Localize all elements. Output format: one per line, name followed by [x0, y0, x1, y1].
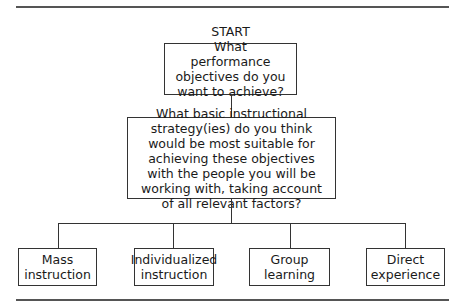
- branch-drop-4: [405, 223, 406, 248]
- outcome-individualized-instruction: Individualized instruction: [134, 248, 214, 286]
- outcome-label: Direct experience: [367, 252, 444, 282]
- outcome-direct-experience: Direct experience: [366, 248, 445, 286]
- bottom-rule: [16, 299, 449, 301]
- branch-horizontal: [58, 223, 406, 224]
- strategy-question-box: What basic instructional strategy(ies) d…: [127, 117, 336, 199]
- outcome-label: Mass instruction: [16, 252, 99, 282]
- objectives-question-text: What performance objectives do you want …: [165, 39, 296, 99]
- outcome-mass-instruction: Mass instruction: [18, 248, 97, 286]
- outcome-label: Individualized instruction: [129, 252, 220, 282]
- branch-drop-2: [173, 223, 174, 248]
- objectives-question-box: What performance objectives do you want …: [164, 43, 297, 95]
- top-rule: [16, 6, 449, 8]
- connector-q2-branch: [231, 199, 232, 223]
- branch-drop-1: [58, 223, 59, 248]
- strategy-question-text: What basic instructional strategy(ies) d…: [128, 106, 335, 211]
- outcome-group-learning: Group learning: [249, 248, 330, 286]
- branch-drop-3: [290, 223, 291, 248]
- start-label: START: [164, 24, 297, 39]
- outcome-label: Group learning: [250, 252, 329, 282]
